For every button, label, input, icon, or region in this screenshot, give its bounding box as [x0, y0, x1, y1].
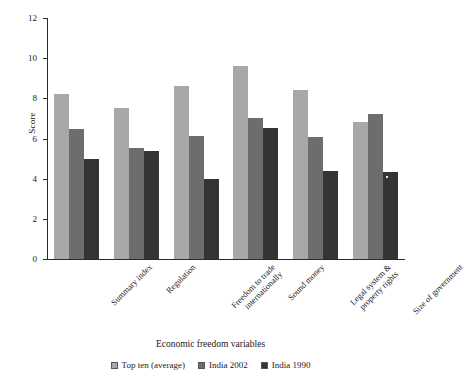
legend-label: India 2002 — [209, 360, 248, 370]
bar — [383, 172, 398, 259]
bar — [323, 171, 338, 259]
x-axis-category-labels: Summary indexRegulationFreedom to tradei… — [47, 262, 405, 338]
bar — [54, 94, 69, 259]
y-tick-label: 0 — [33, 254, 38, 264]
x-axis-line — [47, 259, 405, 260]
x-axis-label: Legal system &property rights — [347, 262, 399, 314]
bar — [174, 86, 189, 259]
x-axis-label-line: Size of government — [411, 262, 465, 316]
y-tick: 0 — [43, 259, 47, 260]
x-axis-label: Freedom to tradeinternationally — [229, 262, 284, 317]
y-tick-label: 12 — [28, 13, 37, 23]
x-axis-label-line: Summary index — [109, 262, 154, 307]
bar-group — [107, 18, 167, 259]
bar — [308, 137, 323, 260]
chart-legend: Top ten (average)India 2002India 1990 — [0, 360, 421, 370]
bar — [204, 179, 219, 259]
y-tick-label: 8 — [33, 93, 38, 103]
bar-group — [286, 18, 346, 259]
bar-group — [47, 18, 107, 259]
x-axis-label: Regulation — [163, 262, 196, 295]
x-axis-label: Sound money — [286, 262, 326, 302]
x-axis-label: Summary index — [109, 262, 154, 307]
legend-swatch — [111, 362, 118, 369]
legend-item: India 2002 — [198, 360, 248, 370]
x-axis-title: Economic freedom variables — [0, 339, 421, 349]
legend-swatch — [198, 362, 205, 369]
bar — [189, 136, 204, 260]
legend-swatch — [261, 362, 268, 369]
bar — [368, 114, 383, 259]
y-tick-label: 10 — [28, 53, 37, 63]
legend-item: India 1990 — [261, 360, 311, 370]
y-tick-label: 4 — [33, 174, 38, 184]
bar-marker-dot — [386, 176, 388, 178]
bar — [293, 90, 308, 259]
bar-group — [226, 18, 286, 259]
legend-label: India 1990 — [272, 360, 311, 370]
x-axis-label-line: Regulation — [163, 262, 196, 295]
bar — [114, 108, 129, 259]
x-axis-label: Size of government — [411, 262, 465, 316]
bar — [84, 159, 99, 259]
bar — [144, 151, 159, 259]
legend-label: Top ten (average) — [122, 360, 185, 370]
y-tick-label: 6 — [33, 134, 38, 144]
bar — [69, 129, 84, 259]
bar-group — [345, 18, 405, 259]
bar — [263, 128, 278, 259]
legend-item: Top ten (average) — [111, 360, 185, 370]
y-tick-label: 2 — [33, 214, 38, 224]
bar — [129, 148, 144, 259]
bar-group — [166, 18, 226, 259]
bar — [353, 122, 368, 259]
bar-groups — [47, 18, 405, 259]
bar — [248, 118, 263, 259]
plot-area: 024681012 — [47, 18, 405, 259]
bar — [233, 66, 248, 259]
x-axis-label-line: Sound money — [286, 262, 326, 302]
